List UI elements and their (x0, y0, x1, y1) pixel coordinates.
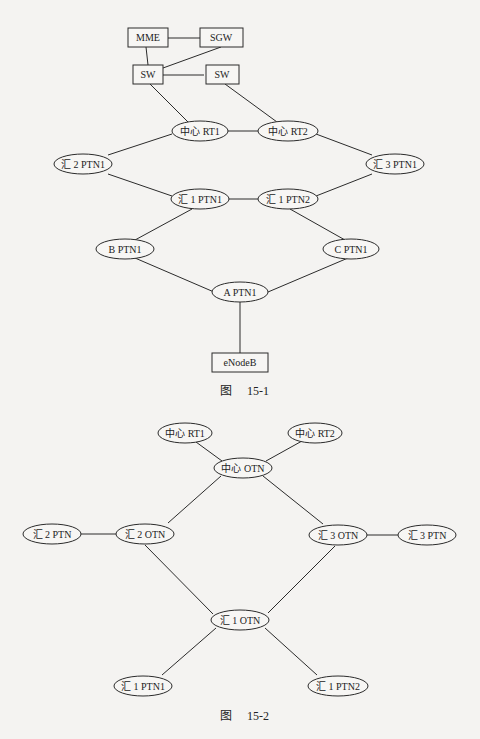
figure-15-2: 中心 RT1 中心 RT2 中心 OTN 汇 2 PTN 汇 2 OTN 汇 3… (23, 423, 456, 723)
agg1-ptn1-node: 汇 1 PTN1 (171, 189, 229, 209)
center-rt1-node: 中心 RT1 (172, 121, 228, 141)
figure-15-1: MME SGW SW SW 中心 RT1 中心 RT2 汇 2 PTN1 (54, 28, 424, 398)
mme-node: MME (128, 28, 168, 47)
agg2-ptn1-node: 汇 2 PTN1 (54, 154, 112, 174)
edge-rt1-center-otn (196, 442, 222, 461)
sgw-label: SGW (210, 32, 233, 43)
agg2-ptn1-label: 汇 2 PTN1 (61, 158, 105, 170)
edge-rt2-agg3 (316, 134, 372, 155)
figure1-caption: 图 15-1 (220, 384, 269, 398)
figure2-caption: 图 15-2 (220, 709, 269, 723)
f2-agg3-ptn-label: 汇 3 PTN (408, 529, 447, 541)
f2-agg3-otn-node: 汇 3 OTN (309, 525, 367, 545)
edge-agg3-otn-agg1-otn (268, 546, 335, 613)
figure2-caption-number: 15-2 (247, 709, 269, 723)
edge-sw-rt2 (225, 84, 277, 122)
center-rt1-label: 中心 RT1 (180, 125, 220, 137)
edge-center-otn-agg3-otn (263, 476, 323, 524)
f2-agg1-otn-node: 汇 1 OTN (211, 610, 269, 630)
agg1-ptn2-label: 汇 1 PTN2 (266, 193, 310, 205)
f2-center-rt2-node: 中心 RT2 (288, 423, 342, 443)
f2-center-otn-label: 中心 OTN (221, 462, 264, 474)
edge-agg1-otn-agg1-ptn1 (162, 628, 216, 675)
figure1-caption-prefix: 图 (220, 384, 232, 398)
enodeb-label: eNodeB (224, 357, 257, 368)
f2-agg1-ptn1-node: 汇 1 PTN1 (114, 676, 172, 696)
edge-cptn1-aptn1 (268, 258, 348, 292)
f2-agg1-ptn1-label: 汇 1 PTN1 (121, 680, 165, 692)
center-rt2-label: 中心 RT2 (268, 125, 308, 137)
figure1-caption-number: 15-1 (247, 384, 269, 398)
f2-agg1-ptn2-node: 汇 1 PTN2 (308, 676, 368, 696)
sw-right-node: SW (206, 65, 239, 84)
figure2-caption-prefix: 图 (220, 709, 232, 723)
agg3-ptn1-node: 汇 3 PTN1 (366, 154, 424, 174)
f2-agg3-otn-label: 汇 3 OTN (318, 529, 359, 541)
edge-rt2-center-otn (266, 441, 302, 461)
f2-agg2-otn-node: 汇 2 OTN (116, 524, 174, 544)
f2-center-rt2-label: 中心 RT2 (295, 427, 335, 439)
edge-sw-rt1 (150, 84, 188, 122)
a-ptn1-node: A PTN1 (212, 282, 268, 302)
f2-agg3-ptn-node: 汇 3 PTN (398, 525, 456, 545)
edge-mme-sw (146, 47, 148, 65)
b-ptn1-label: B PTN1 (108, 244, 141, 255)
enodeb-node: eNodeB (212, 353, 268, 372)
agg3-ptn1-label: 汇 3 PTN1 (373, 158, 417, 170)
b-ptn1-node: B PTN1 (96, 239, 154, 259)
edge-bptn1-aptn1 (135, 258, 214, 292)
edge-agg2-agg1ptn1 (108, 174, 172, 196)
network-diagrams: MME SGW SW SW 中心 RT1 中心 RT2 汇 2 PTN1 (0, 0, 480, 739)
f2-agg1-ptn2-label: 汇 1 PTN2 (316, 680, 360, 692)
sgw-node: SGW (200, 28, 243, 47)
f2-agg2-otn-label: 汇 2 OTN (125, 528, 166, 540)
agg1-ptn2-node: 汇 1 PTN2 (258, 189, 318, 209)
agg1-ptn1-label: 汇 1 PTN1 (178, 193, 222, 205)
mme-label: MME (136, 32, 160, 43)
edge-agg2-otn-agg1-otn (145, 545, 213, 614)
edge-rt1-agg2 (108, 134, 172, 155)
center-rt2-node: 中心 RT2 (258, 121, 318, 141)
edge-agg3-agg1ptn2 (316, 174, 372, 196)
edge-center-otn-agg2-otn (168, 476, 221, 523)
c-ptn1-label: C PTN1 (334, 244, 367, 255)
figure1-edges (108, 38, 372, 353)
f2-center-rt1-label: 中心 RT1 (165, 427, 205, 439)
f2-agg2-ptn-node: 汇 2 PTN (23, 524, 81, 544)
f2-agg1-otn-label: 汇 1 OTN (220, 614, 261, 626)
sw-right-label: SW (215, 69, 231, 80)
sw-left-node: SW (133, 65, 163, 84)
a-ptn1-label: A PTN1 (223, 287, 256, 298)
edge-agg1-otn-agg1-ptn2 (265, 628, 317, 675)
f2-center-otn-node: 中心 OTN (214, 458, 272, 478)
f2-center-rt1-node: 中心 RT1 (158, 423, 212, 443)
sw-left-label: SW (141, 69, 157, 80)
c-ptn1-node: C PTN1 (323, 239, 379, 259)
edge-agg1ptn1-bptn1 (135, 209, 192, 240)
f2-agg2-ptn-label: 汇 2 PTN (33, 528, 72, 540)
edge-agg1ptn2-cptn1 (290, 209, 345, 240)
